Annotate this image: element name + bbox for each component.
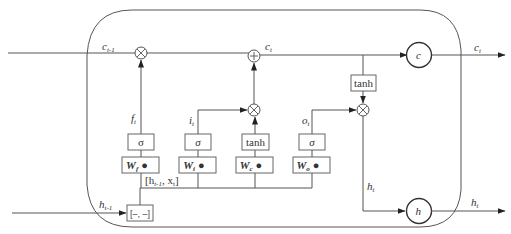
lstm-structure: tanh c h [–, –] Wf● σ Wi● σ Wc● tanh Wo●… bbox=[0, 0, 511, 234]
concat-box-label: [–, –] bbox=[130, 209, 150, 219]
candidate-tanh-label: tanh bbox=[246, 136, 265, 148]
input-sigma-label: σ bbox=[195, 136, 201, 148]
output-sigma-label: σ bbox=[309, 136, 315, 148]
output-tanh-label: tanh bbox=[354, 77, 373, 89]
hidden-state-label: h bbox=[416, 205, 422, 217]
forget-sigma-label: σ bbox=[138, 136, 144, 148]
cell-state-label: c bbox=[416, 49, 421, 61]
